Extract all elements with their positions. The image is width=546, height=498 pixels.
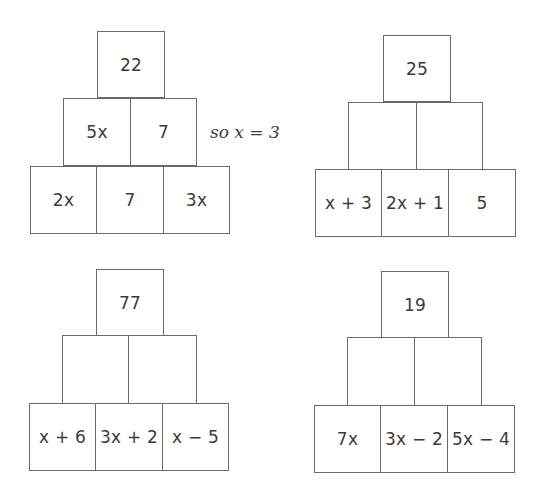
pyramid-1-bottom-cell-1: 2x: [30, 166, 97, 234]
pyramid-1-bottom-cell-3: 3x: [163, 166, 230, 234]
pyramid-1-middle-cell-2: 7: [130, 98, 197, 166]
pyramid-4-middle-cell-2[interactable]: [414, 337, 482, 406]
pyramid-3-middle-cell-1[interactable]: [62, 335, 129, 404]
pyramid-3-top-cell: 77: [96, 269, 164, 336]
pyramid-2-middle-cell-2[interactable]: [416, 102, 483, 170]
pyramid-2-middle-cell-1[interactable]: [348, 102, 417, 170]
pyramid-3-middle-cell-2[interactable]: [128, 335, 197, 404]
pyramid-1-middle-cell-1: 5x: [63, 98, 131, 166]
pyramid-1-top-cell: 22: [97, 31, 165, 98]
pyramid-4-bottom-cell-3: 5x − 4: [447, 405, 515, 473]
pyramid-4-middle-cell-1[interactable]: [347, 337, 415, 406]
pyramid-3-bottom-cell-3: x − 5: [162, 403, 229, 471]
pyramid-4-bottom-cell-2: 3x − 2: [380, 405, 448, 473]
pyramid-4-top-cell: 19: [381, 271, 449, 338]
handwritten-answer-note: so x = 3: [210, 122, 280, 142]
pyramid-1-bottom-cell-2: 7: [96, 166, 164, 234]
pyramid-2-top-cell: 25: [383, 35, 451, 102]
pyramid-2-bottom-cell-1: x + 3: [315, 169, 382, 237]
pyramid-3-bottom-cell-2: 3x + 2: [95, 403, 163, 471]
pyramid-4-bottom-cell-1: 7x: [314, 405, 381, 473]
pyramid-2-bottom-cell-3: 5: [448, 169, 516, 237]
pyramid-2-bottom-cell-2: 2x + 1: [381, 169, 449, 237]
pyramid-3-bottom-cell-1: x + 6: [29, 403, 96, 471]
